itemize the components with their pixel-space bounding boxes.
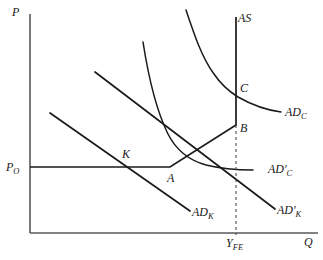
ad-c-curve-label-sub: C bbox=[301, 111, 307, 121]
point-k-label: K bbox=[122, 148, 130, 160]
ad-k-line-label-sub: K bbox=[208, 211, 214, 221]
point-c-label: C bbox=[240, 82, 248, 94]
diagram-canvas bbox=[0, 0, 323, 260]
as-curve-label: AS bbox=[238, 12, 251, 24]
p-axis-label: P bbox=[12, 6, 19, 18]
ad-k-line-label: ADK bbox=[192, 206, 214, 221]
ad-c-curve-label-main: AD bbox=[285, 105, 301, 119]
p-zero-label-sub: O bbox=[13, 166, 19, 176]
point-a-label: A bbox=[167, 172, 174, 184]
ad-k-prime-line-label-sub: K bbox=[296, 209, 302, 219]
y-fe-label-sub: FE bbox=[233, 242, 243, 252]
point-b-label: B bbox=[240, 122, 247, 134]
ad-c-prime-curve-label-sub: C bbox=[287, 168, 293, 178]
ad-c-prime-curve-label-main: AD' bbox=[268, 162, 287, 176]
y-fe-label: YFE bbox=[226, 237, 243, 252]
ad-c-curve bbox=[186, 10, 281, 112]
q-axis-label: Q bbox=[304, 236, 313, 248]
p-zero-label: PO bbox=[6, 161, 19, 176]
y-fe-label-main: Y bbox=[226, 236, 233, 250]
ad-k-prime-line-label-main: AD' bbox=[277, 203, 296, 217]
as-ad-diagram: P Q PO YFE AS ADC AD'C ADK AD'K K A B C bbox=[0, 0, 323, 260]
as-curve bbox=[30, 17, 236, 167]
ad-k-line-label-main: AD bbox=[192, 205, 208, 219]
ad-c-curve-label: ADC bbox=[285, 106, 307, 121]
ad-c-prime-curve-label: AD'C bbox=[268, 163, 292, 178]
ad-k-prime-line-label: AD'K bbox=[277, 204, 301, 219]
